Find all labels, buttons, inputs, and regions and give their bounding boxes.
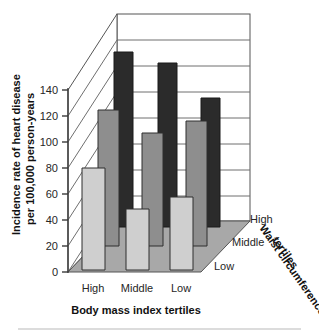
y-tick-label-100: 100 [40, 136, 58, 148]
y-tick-label-140: 140 [40, 84, 58, 96]
bar-chart-3d: 140 120 100 80 60 40 20 0 High Middle Lo… [0, 0, 319, 334]
z-tick-label-low: Low [214, 260, 234, 272]
y-tick-label-120: 120 [40, 110, 58, 122]
z-tick-label-high: High [250, 213, 273, 225]
y-tick-label-40: 40 [46, 214, 58, 226]
y-axis: 140 120 100 80 60 40 20 0 [40, 84, 68, 278]
y-axis-title-line1: Incidence rate of heart disease [10, 74, 22, 235]
bar-low-waist-middle-bmi [126, 209, 149, 270]
chart-back-wall [117, 14, 250, 221]
z-axis-title-line1: Waist circumference [257, 222, 319, 317]
x-axis-title: Body mass index tertiles [71, 304, 201, 316]
x-tick-label-high: High [82, 282, 105, 294]
y-tick-label-80: 80 [46, 162, 58, 174]
x-tick-label-low: Low [171, 282, 191, 294]
z-tick-label-middle: Middle [232, 236, 264, 248]
chart-figure: 140 120 100 80 60 40 20 0 High Middle Lo… [0, 0, 319, 334]
z-axis-title: Waist circumference tertiles [257, 222, 319, 317]
y-tick-label-0: 0 [52, 266, 58, 278]
bar-low-waist-high-bmi [82, 168, 105, 270]
y-tick-label-60: 60 [46, 188, 58, 200]
x-tick-label-middle: Middle [121, 282, 153, 294]
x-axis: High Middle Low [82, 282, 191, 294]
y-axis-title-line2: per 100,000 person-years [24, 93, 36, 225]
y-axis-title: Incidence rate of heart disease per 100,… [10, 74, 36, 235]
y-tick-label-20: 20 [46, 240, 58, 252]
bar-low-waist-low-bmi [170, 197, 193, 270]
